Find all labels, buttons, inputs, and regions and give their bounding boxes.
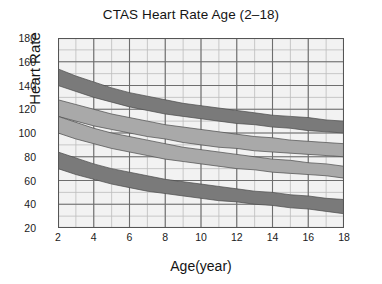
x-axis-tick-label: 16 [293,231,323,243]
y-axis-tick-label: 120 [0,103,36,115]
y-axis-tick-label: 140 [0,80,36,92]
y-axis-tick-label: 20 [0,222,36,234]
y-axis-tick-label: 60 [0,175,36,187]
x-axis-tick-label: 8 [150,231,180,243]
plot-svg [58,38,344,228]
y-axis-label: Heart Rate [26,0,43,139]
y-axis-tick-label: 40 [0,198,36,210]
x-axis-tick-label: 18 [329,231,359,243]
y-axis-tick-label: 100 [0,127,36,139]
x-axis-tick-label: 2 [43,231,73,243]
x-axis-tick-label: 14 [258,231,288,243]
y-axis-tick-label: 160 [0,56,36,68]
x-axis-label: Age(year) [58,258,344,274]
y-axis-tick-label: 80 [0,151,36,163]
chart-title: CTAS Heart Rate Age (2–18) [0,7,382,22]
x-axis-tick-label: 12 [222,231,252,243]
x-axis-tick-label: 4 [79,231,109,243]
x-axis-tick-label: 10 [186,231,216,243]
y-axis-tick-label: 180 [0,32,36,44]
chart-container: CTAS Heart Rate Age (2–18) Heart Rate 20… [0,0,382,284]
plot-area [58,38,344,228]
x-axis-tick-label: 6 [115,231,145,243]
